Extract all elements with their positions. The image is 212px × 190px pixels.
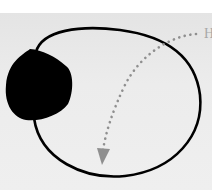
arrowhead-icon: [97, 148, 110, 165]
dotted-arrow-path: [103, 34, 196, 150]
diagram-svg: [0, 0, 212, 190]
arrow-label-partial: H: [204, 26, 212, 42]
black-blob: [6, 49, 73, 120]
